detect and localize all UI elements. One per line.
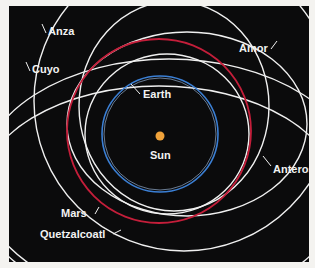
sun-label: Sun	[150, 149, 171, 161]
sun-icon	[156, 132, 165, 141]
mars-label: Mars	[61, 207, 87, 219]
mars-leader	[95, 207, 99, 214]
orbit-svg: Sun Anza Amor Cuyo Earth Anteros Mars Qu…	[9, 6, 309, 262]
earth-label: Earth	[143, 88, 171, 100]
anteros-orbit	[85, 54, 249, 214]
quetzalcoatl-leader	[113, 230, 121, 234]
cuyo-label: Cuyo	[32, 63, 60, 75]
anteros-label: Anteros	[273, 163, 309, 175]
amor-leader	[271, 41, 277, 49]
orbit-diagram: Sun Anza Amor Cuyo Earth Anteros Mars Qu…	[9, 6, 309, 262]
earth-leader	[131, 84, 140, 94]
anza-label: Anza	[48, 25, 75, 37]
cuyo-leader	[26, 62, 30, 71]
anteros-leader	[263, 156, 271, 166]
anza-leader	[42, 24, 46, 33]
quetzalcoatl-label: Quetzalcoatl	[40, 228, 105, 240]
amor-label: Amor	[239, 42, 268, 54]
